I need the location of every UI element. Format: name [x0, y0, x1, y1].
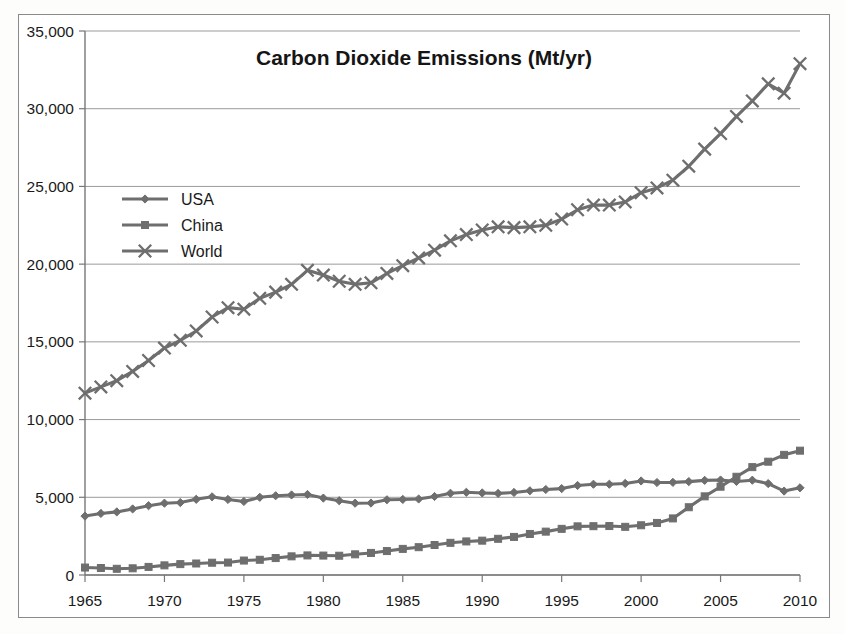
y-tick-label: 20,000 [27, 256, 75, 273]
data-point-marker-diamond [573, 481, 581, 489]
data-point-marker-diamond [430, 492, 438, 500]
data-point-marker-x [778, 87, 790, 99]
axes-group [79, 31, 800, 582]
data-point-marker-square [542, 528, 549, 535]
data-point-marker-x [444, 235, 456, 247]
data-point-marker-square [606, 523, 613, 530]
data-point-marker-diamond [97, 509, 105, 517]
data-point-marker-x [190, 325, 202, 337]
data-point-marker-x [95, 381, 107, 393]
data-point-marker-x [158, 342, 170, 354]
data-point-marker-x [794, 57, 806, 69]
data-point-marker-square [749, 464, 756, 471]
data-point-marker-square [574, 523, 581, 530]
data-point-marker-diamond [605, 480, 613, 488]
data-point-marker-x [111, 375, 123, 387]
data-point-marker-square [511, 533, 518, 540]
x-tick-label: 1965 [68, 592, 102, 609]
data-point-marker-square [463, 538, 470, 545]
data-point-marker-square [781, 451, 788, 458]
series-china [82, 447, 804, 572]
data-point-marker-square [209, 559, 216, 566]
data-point-marker-square [622, 523, 629, 530]
y-tick-label: 5,000 [35, 489, 74, 506]
data-point-marker-square [733, 473, 740, 480]
data-point-marker-diamond [351, 499, 359, 507]
data-point-marker-diamond [685, 477, 693, 485]
data-point-marker-square [161, 562, 168, 569]
data-point-marker-square [129, 565, 136, 572]
data-point-marker-diamond [589, 480, 597, 488]
y-tick-label: 0 [65, 567, 74, 584]
data-point-marker-diamond [256, 493, 264, 501]
data-point-marker-square [383, 548, 390, 555]
data-point-marker-square [320, 552, 327, 559]
data-point-marker-square [797, 447, 804, 454]
data-point-marker-x [397, 259, 409, 271]
data-point-marker-diamond [494, 489, 502, 497]
data-point-marker-square [336, 552, 343, 559]
data-point-marker-diamond [478, 489, 486, 497]
x-tick-label: 2005 [703, 592, 737, 609]
x-tick-label: 1975 [227, 592, 261, 609]
data-point-marker-diamond [335, 497, 343, 505]
data-point-marker-square [97, 565, 104, 572]
y-tick-label: 30,000 [27, 100, 75, 117]
data-point-marker-x [683, 160, 695, 172]
legend-label: World [181, 243, 223, 260]
data-point-marker-diamond [669, 478, 677, 486]
data-point-marker-square [256, 556, 263, 563]
data-point-marker-diamond [224, 495, 232, 503]
data-point-marker-diamond [796, 484, 804, 492]
data-point-marker-square [240, 557, 247, 564]
legend-label: USA [181, 191, 214, 208]
data-point-marker-diamond [208, 493, 216, 501]
x-tick-label: 2000 [624, 592, 659, 609]
legend-item-china[interactable]: China [122, 217, 223, 234]
data-point-marker-diamond [462, 488, 470, 496]
chart-legend: USAChinaWorld [122, 191, 223, 260]
data-point-marker-diamond [81, 512, 89, 520]
data-point-marker-square [177, 561, 184, 568]
chart-title: Carbon Dioxide Emissions (Mt/yr) [256, 46, 592, 69]
data-point-marker-square [288, 553, 295, 560]
data-point-marker-square [765, 458, 772, 465]
data-point-marker-square [717, 483, 724, 490]
data-point-marker-diamond [176, 498, 184, 506]
co2-emissions-line-chart: 05,00010,00015,00020,00025,00030,00035,0… [0, 0, 845, 634]
y-tick-label: 15,000 [27, 333, 75, 350]
data-point-marker-square [193, 560, 200, 567]
x-tick-label: 1995 [544, 592, 578, 609]
data-point-marker-diamond [446, 489, 454, 497]
data-point-marker-diamond [367, 499, 375, 507]
data-point-marker-x [269, 286, 281, 298]
data-point-marker-square [304, 552, 311, 559]
y-tick-label: 10,000 [27, 411, 75, 428]
data-point-marker-diamond [272, 492, 280, 500]
y-tick-label: 35,000 [27, 23, 75, 40]
legend-item-usa[interactable]: USA [122, 191, 214, 208]
data-point-marker-x [254, 292, 266, 304]
data-point-marker-square [352, 551, 359, 558]
data-point-marker-square [685, 504, 692, 511]
data-point-marker-square [447, 539, 454, 546]
data-point-marker-square [526, 530, 533, 537]
data-point-marker-diamond [637, 477, 645, 485]
data-series-group [79, 57, 806, 572]
data-point-marker-square [495, 535, 502, 542]
legend-item-world[interactable]: World [122, 243, 223, 260]
data-point-marker-square [590, 523, 597, 530]
data-point-marker-diamond [701, 476, 709, 484]
data-point-marker-diamond [415, 495, 423, 503]
x-tick-label: 1985 [386, 592, 420, 609]
data-point-marker-square [113, 565, 120, 572]
data-point-marker-x [381, 267, 393, 279]
data-point-marker-x [412, 252, 424, 264]
data-point-marker-square [225, 559, 232, 566]
data-point-marker-diamond [526, 487, 534, 495]
y-tick-label: 25,000 [27, 178, 75, 195]
data-point-marker-x [142, 354, 154, 366]
data-point-marker-square [701, 493, 708, 500]
data-point-marker-square [654, 519, 661, 526]
data-point-marker-diamond [558, 484, 566, 492]
